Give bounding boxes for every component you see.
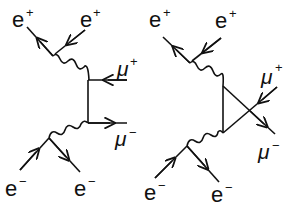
label-mu-minus: μ	[114, 127, 127, 150]
photon-lower	[187, 131, 223, 146]
svg-text:+: +	[26, 5, 34, 20]
arrow-icon	[20, 152, 36, 170]
label-e-plus-in: e	[80, 7, 92, 32]
label-e-plus-in: e	[215, 8, 227, 33]
arrow-icon	[155, 161, 172, 178]
svg-text:−: −	[158, 178, 166, 193]
svg-text:−: −	[19, 174, 27, 189]
feynman-diagrams: e + e + μ + μ − e − e − e + e + μ + μ	[0, 0, 289, 212]
arrow-icon	[176, 50, 190, 64]
photon-lower	[49, 121, 88, 138]
label-e-minus-out: e	[74, 176, 86, 201]
label-e-minus-out: e	[211, 182, 223, 207]
label-mu-minus: μ	[257, 140, 270, 163]
svg-text:−: −	[225, 180, 233, 195]
diagram-right: e + e + μ + μ − e − e −	[144, 5, 283, 207]
label-e-minus-in: e	[5, 176, 17, 201]
svg-text:+: +	[229, 6, 237, 21]
svg-text:+: +	[163, 5, 171, 20]
arrow-icon	[206, 38, 221, 50]
arrow-icon	[262, 87, 277, 100]
label-mu-plus: μ	[116, 57, 129, 80]
svg-text:+: +	[275, 60, 283, 75]
svg-text:−: −	[88, 174, 96, 189]
label-e-minus-in: e	[144, 180, 156, 205]
photon-upper	[190, 62, 223, 86]
label-mu-plus: μ	[260, 65, 273, 88]
label-e-plus-out: e	[12, 7, 24, 32]
svg-text:−: −	[272, 138, 280, 153]
label-e-plus-out: e	[149, 7, 161, 32]
arrow-icon	[49, 138, 66, 157]
svg-text:+: +	[93, 5, 101, 20]
svg-text:+: +	[130, 54, 138, 69]
arrow-icon	[40, 42, 53, 57]
svg-text:−: −	[129, 125, 137, 140]
photon-upper	[53, 55, 89, 80]
diagram-left: e + e + μ + μ − e − e −	[5, 5, 138, 201]
arrow-icon	[250, 111, 264, 124]
arrow-icon	[187, 146, 205, 166]
